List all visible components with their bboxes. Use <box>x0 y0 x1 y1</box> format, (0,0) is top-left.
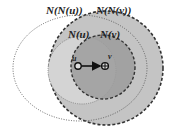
label-v: v <box>108 52 112 61</box>
label-nu: N(u) <box>67 28 89 41</box>
node-v <box>102 63 109 70</box>
label-u: u <box>72 54 77 63</box>
node-u <box>75 63 81 69</box>
label-nv: N(v) <box>99 28 120 41</box>
label-nnu: N(N(u)) <box>45 4 83 17</box>
neighborhood-diagram: N(N(u)) N(N(v)) N(u) N(v) u v <box>0 0 174 132</box>
label-nnv: N(N(v)) <box>95 4 131 17</box>
